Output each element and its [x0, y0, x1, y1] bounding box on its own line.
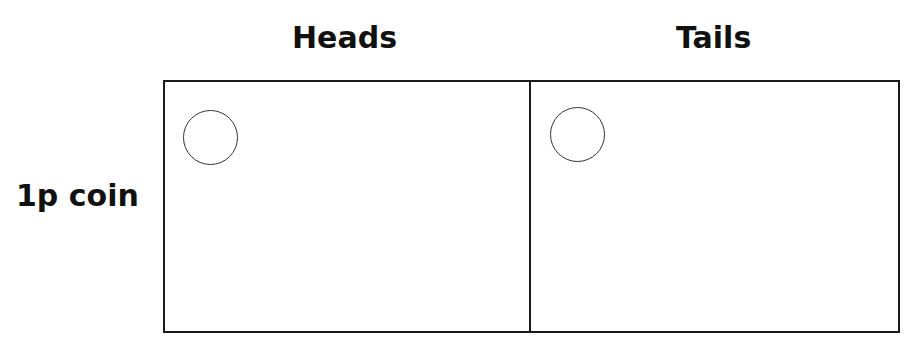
coin-circle-icon	[183, 110, 238, 165]
column-header-heads: Heads	[292, 18, 397, 58]
column-header-tails: Tails	[676, 18, 751, 58]
cell-heads[interactable]	[165, 82, 531, 331]
cell-tails[interactable]	[531, 82, 898, 331]
coin-table	[163, 80, 900, 333]
coin-circle-icon	[550, 107, 605, 162]
row-label-1p-coin: 1p coin	[16, 176, 139, 216]
